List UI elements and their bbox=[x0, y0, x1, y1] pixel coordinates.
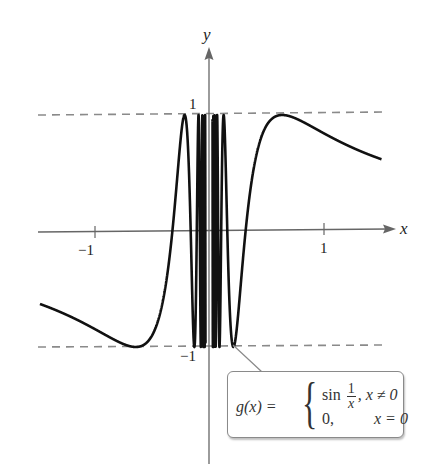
function-lhs: g(x) = bbox=[236, 398, 277, 416]
row2-condition: x = 0 bbox=[374, 410, 408, 427]
piece-row-1: sin 1 x , x ≠ 0 bbox=[322, 382, 398, 411]
fraction-1-over-x: 1 x bbox=[347, 382, 356, 411]
function-definition-callout: g(x) = { sin 1 x , x ≠ 0 0, x = 0 bbox=[227, 371, 404, 438]
x-tick-label-pos1: 1 bbox=[320, 241, 328, 256]
y-tick-label-pos1: 1 bbox=[189, 97, 197, 112]
sin-fn: sin bbox=[322, 386, 341, 403]
callout-pointer bbox=[233, 345, 262, 372]
row1-condition: , x ≠ 0 bbox=[358, 386, 398, 403]
brace-glyph: { bbox=[302, 374, 317, 432]
y-axis-label: y bbox=[203, 26, 211, 43]
x-tick-label-neg1: −1 bbox=[78, 243, 94, 258]
x-axis-label: x bbox=[400, 220, 408, 237]
dashed-line-y-1 bbox=[38, 112, 385, 115]
piece-row-2: 0, x = 0 bbox=[322, 410, 408, 428]
row2-value: 0, bbox=[322, 410, 334, 427]
dashed-line-y-neg1 bbox=[38, 345, 385, 347]
y-tick-label-neg1: −1 bbox=[180, 349, 196, 364]
